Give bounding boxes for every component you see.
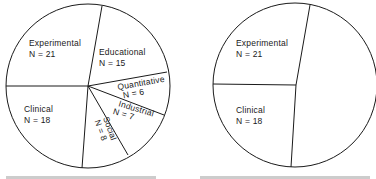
label-clinical-right-n: N = 18 [236, 116, 263, 126]
label-experimental: Experimental [29, 38, 81, 48]
divider-experimental-educational [88, 6, 102, 86]
divider-social-clinical [82, 86, 88, 168]
clipped-caption [6, 176, 370, 179]
label-experimental-right: Experimental [236, 38, 288, 48]
label-experimental-n: N = 21 [29, 49, 56, 59]
divider-experimental-unlabeled [296, 5, 310, 85]
pie-left-labels: Experimental N = 21 Educational N = 15 Q… [24, 38, 167, 145]
pie-right-labels: Experimental N = 21 Clinical N = 18 [236, 38, 288, 126]
divider-clinical-unlabeled [291, 85, 296, 167]
divider-clinical-experimental-right [213, 84, 296, 85]
label-clinical-right: Clinical [236, 105, 265, 115]
label-clinical: Clinical [24, 104, 53, 114]
label-clinical-n: N = 18 [24, 115, 51, 125]
figure-canvas: Experimental N = 21 Educational N = 15 Q… [0, 0, 376, 179]
pie-chart-right [213, 3, 376, 167]
label-educational: Educational [99, 47, 146, 57]
label-educational-n: N = 15 [99, 58, 126, 68]
label-experimental-right-n: N = 21 [236, 49, 263, 59]
